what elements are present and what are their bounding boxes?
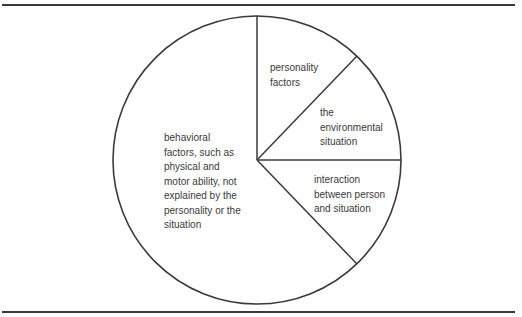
slice-label-behavioral-factors: behavioral factors, such as physical and… [164, 131, 241, 233]
pie-chart [0, 0, 522, 317]
slice-label-personality-factors: personality factors [270, 61, 318, 90]
slice-label-interaction: interaction between person and situation [314, 173, 385, 217]
bottom-rule [2, 311, 515, 313]
slice-label-environmental-situation: the environmental situation [320, 106, 383, 150]
